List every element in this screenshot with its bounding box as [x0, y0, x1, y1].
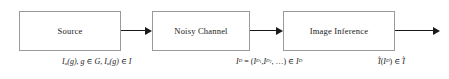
- stage-box-image-inference: Image Inference: [283, 11, 395, 51]
- source-comma-1: ,: [77, 57, 79, 66]
- block-diagram: Source Noisy Channel Image Inference Iα(…: [0, 0, 449, 79]
- channel-lhs-sup: D: [239, 58, 243, 63]
- hat-accent-icon: ^: [378, 55, 381, 62]
- stage-box-source: Source: [19, 11, 121, 51]
- arrow-head: [433, 27, 440, 35]
- stage-box-noisy-channel: Noisy Channel: [152, 11, 250, 51]
- source-comma-2: ,: [100, 57, 102, 66]
- stage-label-image-inference: Image Inference: [310, 27, 368, 36]
- annotation-source-math: Iα(g), g ∈ G, Iα(g) ∈ I: [62, 58, 132, 67]
- channel-ellipsis: , …): [271, 57, 286, 66]
- stage-label-noisy-channel: Noisy Channel: [174, 27, 227, 36]
- arrow-source-to-channel-icon: [121, 30, 152, 31]
- source-arg-2: (g): [110, 57, 119, 66]
- arrow-inference-to-output-icon: [395, 30, 440, 31]
- inference-ihat: ^I: [378, 58, 381, 67]
- stage-label-source: Source: [58, 27, 83, 36]
- source-in-1: ∈: [87, 57, 93, 66]
- source-g: g: [81, 57, 85, 66]
- channel-equals: =: [244, 57, 249, 66]
- inference-in: ∈: [394, 57, 400, 66]
- arrow-shaft: [395, 30, 433, 31]
- arrow-shaft: [250, 30, 276, 31]
- hat-accent-icon-2: ^: [402, 55, 405, 62]
- arrow-head: [276, 27, 283, 35]
- arrow-head: [145, 27, 152, 35]
- source-arg: (g): [67, 57, 76, 66]
- channel-script-i-sup: D: [299, 58, 303, 63]
- arrow-channel-to-inference-icon: [250, 30, 283, 31]
- arrow-shaft: [121, 30, 145, 31]
- channel-in: ∈: [288, 57, 294, 66]
- source-in-2: ∈: [121, 57, 127, 66]
- inference-script-i-hat: ^I: [402, 58, 405, 67]
- annotation-inference-math: ^I(ID) ∈ ^I: [378, 58, 405, 67]
- source-script-i: I: [129, 57, 132, 66]
- inference-close-paren: ): [390, 57, 393, 66]
- annotation-channel-math: ID = (ID1,ID2, …) ∈ ID: [236, 58, 302, 67]
